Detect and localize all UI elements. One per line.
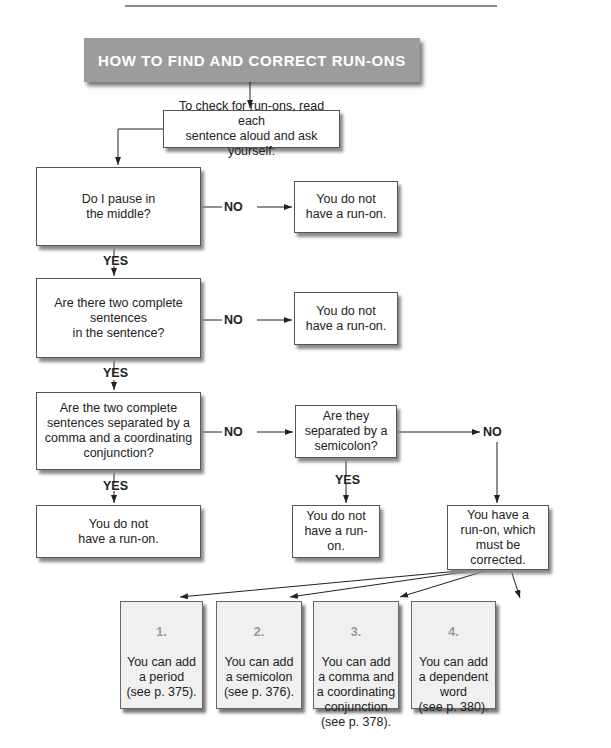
question-semicolon-box: Are they separated by a semicolon? [295,405,397,458]
label-yes-1: YES [103,254,128,268]
question-comma-conjunction-box: Are the two complete sentences separated… [36,392,201,470]
solution-number: 3. [314,625,398,640]
outcome-no-runon-4: You do not have a run-on. [292,505,380,558]
label-no-1: NO [224,200,243,214]
solution-text: You can add a comma and a coordinating c… [317,655,396,729]
label-no-2: NO [224,313,243,327]
question-two-sentences-box: Are there two complete sentences in the … [36,278,201,358]
label-yes-4: YES [335,473,360,487]
outcome-no-runon-2: You do not have a run-on. [294,292,398,345]
solution-text: You can add a dependent word (see p. 380… [418,655,488,714]
outcome-no-runon-1: You do not have a run-on. [294,181,398,233]
solution-comma-conjunction: 3. You can add a comma and a coordinatin… [313,601,399,709]
solution-semicolon: 2. You can add a semicolon (see p. 376). [216,601,302,709]
solution-number: 4. [412,625,495,640]
label-yes-2: YES [103,366,128,380]
question-pause-box: Do I pause in the middle? [36,167,201,246]
label-no-3: NO [224,425,243,439]
solution-text: You can add a period (see p. 375). [126,655,196,699]
outcome-runon-box: You have a run-on, which must be correct… [447,505,549,570]
outcome-no-runon-3: You do not have a run-on. [36,505,201,558]
intro-box: To check for run-ons, read each sentence… [163,110,340,148]
solution-number: 1. [121,625,202,640]
solution-text: You can add a semicolon (see p. 376). [224,655,294,699]
label-no-4: NO [483,425,502,439]
solution-period: 1. You can add a period (see p. 375). [120,601,203,709]
solution-number: 2. [217,625,301,640]
solution-dependent-word: 4. You can add a dependent word (see p. … [411,601,496,709]
label-yes-3: YES [103,479,128,493]
